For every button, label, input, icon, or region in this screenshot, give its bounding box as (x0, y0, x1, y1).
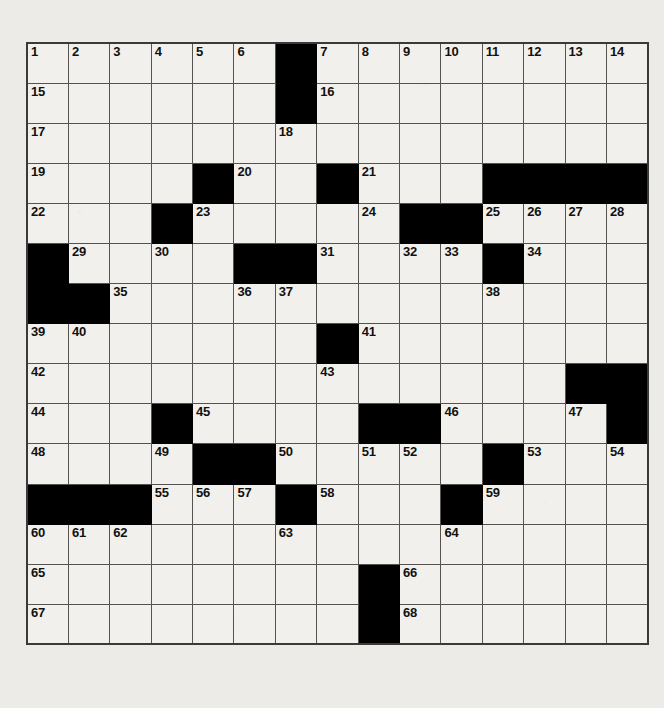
crossword-cell[interactable]: 35 (110, 284, 151, 324)
crossword-cell[interactable]: 31 (317, 243, 358, 283)
crossword-cell[interactable]: 7 (317, 43, 358, 83)
crossword-cell[interactable]: 64 (441, 524, 482, 564)
crossword-cell[interactable]: 60 (27, 524, 68, 564)
crossword-cell[interactable] (565, 243, 606, 283)
crossword-cell[interactable]: 44 (27, 404, 68, 444)
crossword-cell[interactable] (317, 123, 358, 163)
crossword-cell[interactable] (400, 524, 441, 564)
crossword-cell[interactable] (441, 284, 482, 324)
crossword-cell[interactable] (317, 604, 358, 644)
crossword-cell[interactable] (441, 604, 482, 644)
crossword-cell[interactable] (110, 604, 151, 644)
crossword-cell[interactable] (275, 203, 316, 243)
crossword-cell[interactable] (151, 324, 192, 364)
crossword-cell[interactable] (400, 123, 441, 163)
crossword-cell[interactable]: 32 (400, 243, 441, 283)
crossword-cell[interactable]: 47 (565, 404, 606, 444)
crossword-cell[interactable] (317, 564, 358, 604)
crossword-cell[interactable]: 68 (400, 604, 441, 644)
crossword-cell[interactable] (110, 123, 151, 163)
crossword-cell[interactable]: 54 (606, 444, 647, 484)
crossword-cell[interactable]: 43 (317, 364, 358, 404)
crossword-cell[interactable] (524, 564, 565, 604)
crossword-cell[interactable]: 55 (151, 484, 192, 524)
crossword-cell[interactable] (193, 324, 234, 364)
crossword-cell[interactable]: 27 (565, 203, 606, 243)
crossword-cell[interactable] (68, 404, 109, 444)
crossword-cell[interactable]: 67 (27, 604, 68, 644)
crossword-cell[interactable] (68, 123, 109, 163)
crossword-cell[interactable] (193, 364, 234, 404)
crossword-cell[interactable] (358, 123, 399, 163)
crossword-cell[interactable] (606, 284, 647, 324)
crossword-cell[interactable] (193, 284, 234, 324)
crossword-cell[interactable] (193, 524, 234, 564)
crossword-cell[interactable]: 61 (68, 524, 109, 564)
crossword-cell[interactable]: 17 (27, 123, 68, 163)
crossword-cell[interactable]: 11 (482, 43, 523, 83)
crossword-cell[interactable] (441, 123, 482, 163)
crossword-cell[interactable] (606, 484, 647, 524)
crossword-cell[interactable]: 33 (441, 243, 482, 283)
crossword-cell[interactable] (110, 324, 151, 364)
crossword-cell[interactable] (110, 83, 151, 123)
crossword-cell[interactable] (151, 524, 192, 564)
crossword-cell[interactable] (358, 243, 399, 283)
crossword-cell[interactable]: 56 (193, 484, 234, 524)
crossword-cell[interactable] (110, 163, 151, 203)
crossword-cell[interactable] (524, 83, 565, 123)
crossword-cell[interactable] (565, 123, 606, 163)
crossword-cell[interactable]: 36 (234, 284, 275, 324)
crossword-cell[interactable] (110, 444, 151, 484)
crossword-cell[interactable] (193, 604, 234, 644)
crossword-cell[interactable] (524, 284, 565, 324)
crossword-cell[interactable]: 51 (358, 444, 399, 484)
crossword-cell[interactable] (151, 284, 192, 324)
crossword-cell[interactable] (317, 444, 358, 484)
crossword-cell[interactable] (606, 564, 647, 604)
crossword-cell[interactable] (524, 604, 565, 644)
crossword-cell[interactable] (151, 163, 192, 203)
crossword-cell[interactable]: 8 (358, 43, 399, 83)
crossword-cell[interactable]: 15 (27, 83, 68, 123)
crossword-cell[interactable] (151, 564, 192, 604)
crossword-cell[interactable]: 50 (275, 444, 316, 484)
crossword-cell[interactable]: 25 (482, 203, 523, 243)
crossword-cell[interactable]: 2 (68, 43, 109, 83)
crossword-cell[interactable] (606, 123, 647, 163)
crossword-cell[interactable] (68, 83, 109, 123)
crossword-cell[interactable] (358, 484, 399, 524)
crossword-cell[interactable] (565, 604, 606, 644)
crossword-cell[interactable] (151, 604, 192, 644)
crossword-cell[interactable] (234, 203, 275, 243)
crossword-cell[interactable]: 41 (358, 324, 399, 364)
crossword-cell[interactable]: 22 (27, 203, 68, 243)
crossword-cell[interactable] (317, 524, 358, 564)
crossword-cell[interactable]: 42 (27, 364, 68, 404)
crossword-cell[interactable] (565, 83, 606, 123)
crossword-cell[interactable] (234, 123, 275, 163)
crossword-cell[interactable] (565, 444, 606, 484)
crossword-cell[interactable] (68, 604, 109, 644)
crossword-cell[interactable]: 14 (606, 43, 647, 83)
crossword-cell[interactable] (441, 83, 482, 123)
crossword-cell[interactable]: 34 (524, 243, 565, 283)
crossword-cell[interactable] (68, 364, 109, 404)
crossword-cell[interactable] (234, 564, 275, 604)
crossword-cell[interactable]: 21 (358, 163, 399, 203)
crossword-cell[interactable]: 66 (400, 564, 441, 604)
crossword-cell[interactable]: 58 (317, 484, 358, 524)
crossword-cell[interactable]: 29 (68, 243, 109, 283)
crossword-cell[interactable] (565, 564, 606, 604)
crossword-cell[interactable]: 40 (68, 324, 109, 364)
crossword-cell[interactable]: 18 (275, 123, 316, 163)
crossword-cell[interactable] (193, 123, 234, 163)
crossword-cell[interactable]: 37 (275, 284, 316, 324)
crossword-cell[interactable] (441, 364, 482, 404)
crossword-cell[interactable] (524, 404, 565, 444)
crossword-cell[interactable] (524, 123, 565, 163)
crossword-cell[interactable] (275, 404, 316, 444)
crossword-cell[interactable] (358, 83, 399, 123)
crossword-cell[interactable] (400, 484, 441, 524)
crossword-cell[interactable] (234, 324, 275, 364)
